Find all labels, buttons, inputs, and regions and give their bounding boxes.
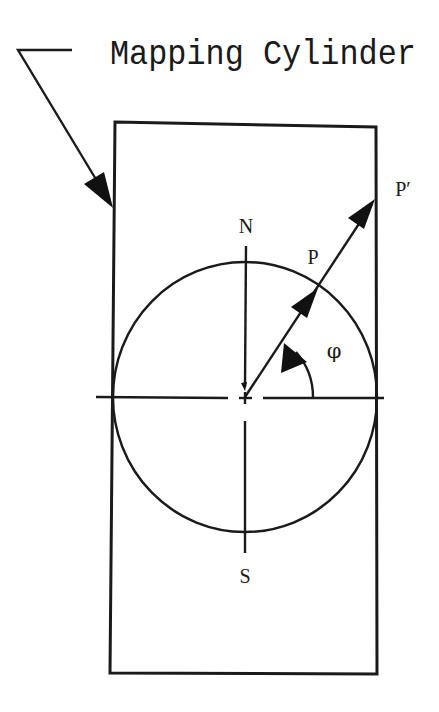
angle-arrowhead-icon — [281, 343, 307, 373]
ray-arrowhead-pprime-icon — [348, 199, 375, 229]
leader-arrowhead-icon — [84, 172, 113, 208]
north-axis — [241, 246, 247, 404]
equator-line — [96, 397, 384, 398]
leader-arrow — [18, 50, 113, 208]
projection-ray — [245, 199, 375, 397]
angle-phi-arc — [281, 343, 313, 397]
label-point-p: P — [307, 246, 318, 268]
north-axis-line — [245, 246, 246, 387]
label-north: N — [239, 215, 253, 237]
label-south: S — [239, 565, 250, 587]
mapping-cylinder-diagram: Mapping Cylinder N S P P′ φ — [0, 0, 439, 712]
label-angle-phi: φ — [327, 339, 342, 363]
leader-line — [18, 50, 100, 186]
diagram-title: Mapping Cylinder — [110, 35, 416, 75]
label-point-p-prime: P′ — [395, 178, 411, 200]
equator-left-segment — [96, 397, 228, 398]
ray-arrowhead-p-icon — [291, 288, 318, 318]
